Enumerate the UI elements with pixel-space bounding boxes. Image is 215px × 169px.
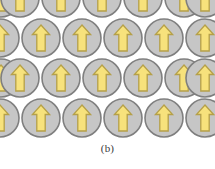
figure-caption: (b) bbox=[0, 142, 215, 154]
magnetic-dipole-unit bbox=[104, 99, 142, 137]
dipole-row bbox=[0, 0, 215, 17]
magnetic-dipole-unit bbox=[83, 0, 121, 17]
magnetic-dipole-unit bbox=[0, 99, 19, 137]
magnetic-dipole-unit bbox=[1, 59, 39, 97]
magnetic-dipole-unit bbox=[42, 0, 80, 17]
magnetic-dipole-unit bbox=[186, 59, 215, 97]
dipole-row bbox=[0, 99, 215, 137]
figure-panel-b: (b) bbox=[0, 0, 215, 169]
magnetic-dipole-unit bbox=[22, 99, 60, 137]
magnetic-dipole-unit bbox=[104, 19, 142, 57]
dipole-row bbox=[0, 59, 215, 97]
magnetic-dipole-unit bbox=[63, 19, 101, 57]
dipole-row bbox=[0, 19, 215, 57]
magnetic-dipole-unit bbox=[124, 0, 162, 17]
magnetic-dipole-unit bbox=[22, 19, 60, 57]
domain-array-svg bbox=[0, 0, 215, 138]
magnetic-dipole-unit bbox=[0, 19, 19, 57]
magnetic-dipole-unit bbox=[124, 59, 162, 97]
magnetic-dipole-unit bbox=[83, 59, 121, 97]
magnetic-dipole-unit bbox=[145, 99, 183, 137]
magnetic-dipole-unit bbox=[186, 99, 215, 137]
magnetic-dipole-unit bbox=[42, 59, 80, 97]
magnetic-dipole-unit bbox=[145, 19, 183, 57]
magnetic-dipole-unit bbox=[186, 19, 215, 57]
magnetic-domain-diagram bbox=[0, 0, 215, 138]
magnetic-dipole-unit bbox=[63, 99, 101, 137]
